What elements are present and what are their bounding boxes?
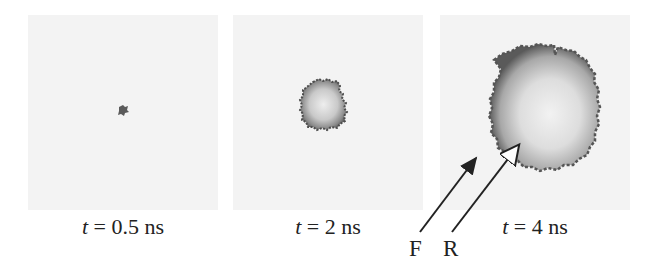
front-arrow xyxy=(420,158,476,232)
front-label: F xyxy=(409,236,422,262)
rear-label: R xyxy=(443,236,458,262)
annotation-arrows xyxy=(0,0,656,269)
rear-arrow xyxy=(452,146,518,232)
